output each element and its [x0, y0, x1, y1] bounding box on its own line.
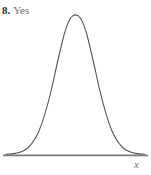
normal-distribution-plot — [0, 0, 151, 175]
bell-curve-path — [6, 15, 145, 154]
bell-curve-figure: 8.Yes x — [0, 0, 151, 175]
x-axis-label: x — [134, 159, 139, 170]
